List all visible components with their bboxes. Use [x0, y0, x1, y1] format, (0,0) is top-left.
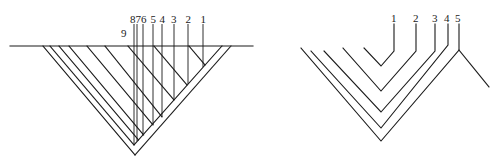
- label-2: 2: [186, 13, 192, 25]
- right-label-2: 2: [413, 12, 419, 24]
- label-3: 3: [171, 13, 177, 25]
- right-label-5: 5: [455, 12, 461, 24]
- label-4: 4: [160, 13, 166, 25]
- figure-canvas: 8 7 6 5 4 3 2 1 9 1 2 3 4 5: [0, 0, 497, 166]
- v-layer-3: [324, 24, 435, 112]
- label-5: 5: [151, 13, 157, 25]
- label-6: 6: [141, 13, 147, 25]
- right-label-4: 4: [444, 12, 450, 24]
- diagonal-layer-lines: [43, 46, 205, 155]
- v-layer-4: [311, 24, 448, 128]
- layer-5-tail-line: [459, 50, 489, 87]
- v-layer-2: [343, 24, 416, 91]
- right-label-3: 3: [432, 12, 438, 24]
- v-layer-1: [364, 24, 394, 66]
- label-9: 9: [121, 27, 127, 39]
- diagonal-line: [43, 46, 135, 155]
- diagonal-line: [128, 46, 174, 100]
- left-triangle-diagram: 8 7 6 5 4 3 2 1 9: [10, 13, 253, 155]
- inner-right-edge: [134, 46, 222, 145]
- right-label-1: 1: [391, 12, 397, 24]
- label-1: 1: [201, 13, 207, 25]
- vertical-marker-lines: [134, 24, 203, 145]
- diagonal-line: [154, 46, 187, 85]
- diagonal-line: [50, 46, 134, 145]
- right-nested-v-diagram: 1 2 3 4 5: [301, 12, 489, 141]
- nested-v-layers: [301, 24, 459, 141]
